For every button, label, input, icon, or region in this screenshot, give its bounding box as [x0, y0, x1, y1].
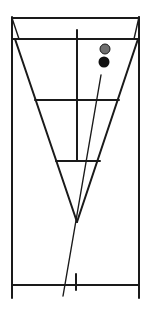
slanted-line — [63, 75, 101, 296]
circle-upper — [100, 44, 110, 54]
outer-frame — [12, 17, 139, 298]
diagram-canvas — [0, 0, 151, 316]
triangle-left-edge — [15, 39, 77, 222]
triangle-right-edge — [77, 39, 138, 222]
circle-lower — [99, 57, 110, 68]
corner-bevel-left — [12, 18, 19, 39]
